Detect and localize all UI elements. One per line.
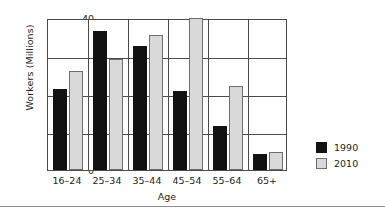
black-square-icon [316,142,327,153]
bar-1990-25-34 [93,31,108,170]
gridline-vertical [168,20,169,170]
bottom-divider [0,206,385,207]
legend-item[interactable]: 1990 [316,139,358,155]
plot-area [47,19,287,171]
bar-1990-65+ [253,154,268,170]
legend-item-label: 2010 [334,158,358,169]
gridline-vertical [88,20,89,170]
bar-2010-16-24 [69,71,84,170]
x-tick-label: 65+ [247,175,287,186]
y-axis-title: Workers (Millions) [24,0,35,143]
legend-item-label: 1990 [334,142,358,153]
x-tick-label: 16–24 [47,175,87,186]
bar-1990-45-54 [173,91,188,170]
bar-2010-65+ [269,152,284,170]
bar-2010-35-44 [149,35,164,170]
bar-2010-55-64 [229,86,244,170]
gridline-horizontal [48,58,286,59]
gridline-horizontal [48,96,286,97]
bar-chart-figure: Workers (Millions) 010203040 16–2425–343… [0,0,385,216]
bar-1990-35-44 [133,46,148,170]
gridline-vertical [208,20,209,170]
x-tick-label: 45–54 [167,175,207,186]
bar-1990-55-64 [213,126,228,170]
bar-2010-25-34 [109,59,124,170]
light-gray-square-icon [316,158,327,169]
gridline-vertical [128,20,129,170]
legend-item[interactable]: 2010 [316,155,358,171]
legend: 19902010 [316,139,358,171]
x-tick-label: 35–44 [127,175,167,186]
bar-2010-45-54 [189,18,204,170]
gridline-horizontal [48,134,286,135]
x-tick-label: 55–64 [207,175,247,186]
bar-1990-16-24 [53,89,68,170]
gridline-vertical [248,20,249,170]
x-axis-title: Age [47,191,287,202]
x-tick-label: 25–34 [87,175,127,186]
